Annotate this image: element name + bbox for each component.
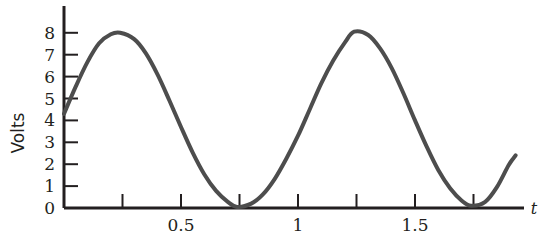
chart-container: 012345678 0.511.5 Volts t bbox=[0, 0, 554, 240]
x-axis-title: t bbox=[531, 199, 538, 218]
y-tick-label: 8 bbox=[44, 23, 55, 43]
y-tick-label: 2 bbox=[44, 154, 55, 174]
y-tick-label: 5 bbox=[44, 89, 55, 109]
y-tick-label: 4 bbox=[44, 110, 55, 130]
y-axis-tick-labels: 012345678 bbox=[44, 23, 55, 218]
voltage-curve bbox=[64, 31, 516, 207]
y-tick-label: 1 bbox=[44, 176, 55, 196]
y-tick-label: 0 bbox=[44, 198, 55, 218]
x-tick-label: 1.5 bbox=[401, 215, 428, 235]
x-tick-label: 1 bbox=[293, 215, 304, 235]
x-axis-tick-labels: 0.511.5 bbox=[167, 215, 428, 235]
y-axis-title: Volts bbox=[8, 112, 28, 153]
y-tick-label: 7 bbox=[44, 45, 55, 65]
y-tick-label: 3 bbox=[44, 132, 55, 152]
y-tick-label: 6 bbox=[44, 67, 55, 87]
x-tick-label: 0.5 bbox=[167, 215, 194, 235]
voltage-time-plot: 012345678 0.511.5 Volts t bbox=[0, 0, 554, 240]
x-axis-ticks bbox=[123, 194, 474, 208]
